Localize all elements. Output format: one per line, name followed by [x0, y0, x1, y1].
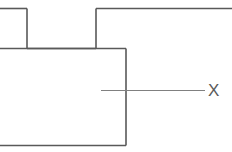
annotation-label-layer: X	[0, 0, 232, 152]
dimension-label-x: X	[208, 82, 219, 99]
technical-drawing-canvas: X	[0, 0, 232, 152]
